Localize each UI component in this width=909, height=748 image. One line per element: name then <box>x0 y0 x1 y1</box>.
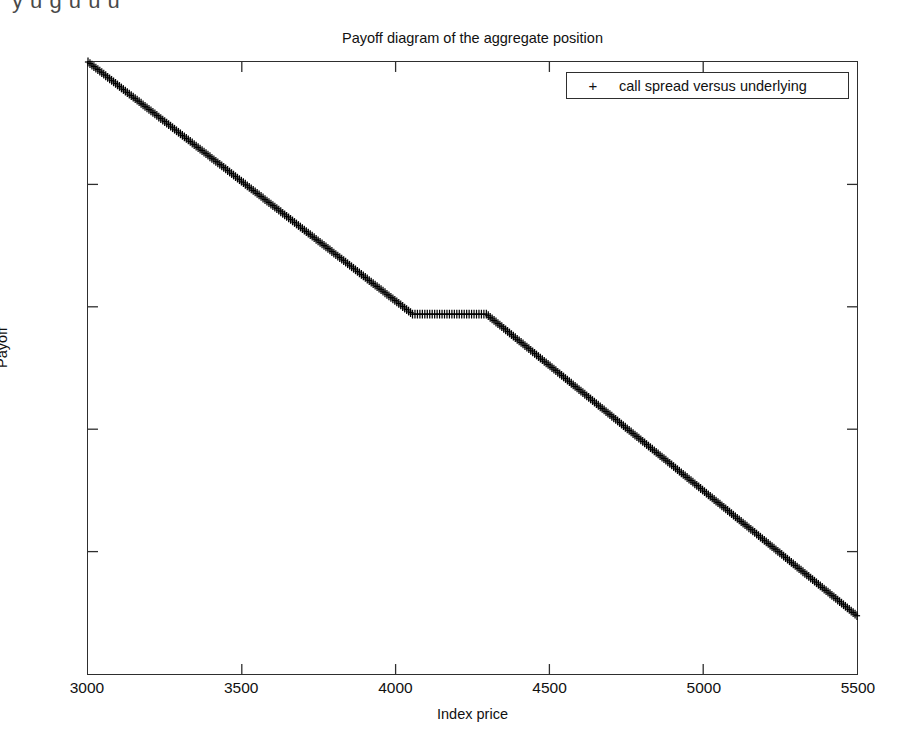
y-axis-ticks <box>88 184 857 551</box>
y-axis-label: Payoff <box>0 327 10 368</box>
payoff-chart-figure: Payoff diagram of the aggregate position… <box>0 0 909 748</box>
plot-area <box>87 61 858 675</box>
data-series-call-spread-versus-underlying <box>85 58 860 621</box>
x-tick-label: 5000 <box>644 679 764 697</box>
x-tick-label: 4000 <box>335 679 455 697</box>
legend-marker-plus-icon: + <box>567 78 619 93</box>
x-tick-label: 3000 <box>27 679 147 697</box>
legend-label: call spread versus underlying <box>619 78 807 94</box>
chart-title: Payoff diagram of the aggregate position <box>87 30 858 46</box>
chart-legend: + call spread versus underlying <box>566 72 849 99</box>
x-axis-label: Index price <box>87 706 858 722</box>
x-tick-label: 3500 <box>181 679 301 697</box>
x-axis-ticks <box>242 62 703 674</box>
plot-canvas <box>88 62 857 674</box>
x-tick-label: 5500 <box>798 679 909 697</box>
x-tick-label: 4500 <box>490 679 610 697</box>
